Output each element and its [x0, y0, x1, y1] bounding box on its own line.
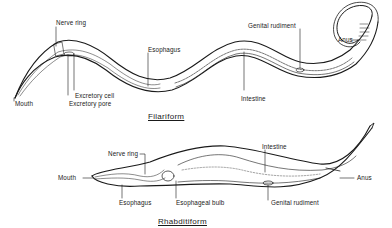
title-filariform: Filariform	[148, 113, 184, 121]
label-rhabditiform-esophagus: Esophagus	[119, 200, 151, 206]
title-rhabditiform: Rhabditiform	[158, 218, 207, 226]
label-filariform-intestine: Intestine	[241, 96, 266, 102]
label-filariform-nerve-ring: Nerve ring	[56, 20, 86, 26]
label-filariform-excretory-pore: Excretory pore	[69, 101, 111, 107]
label-rhabditiform-mouth: Mouth	[58, 175, 76, 181]
label-filariform-esophagus: Esophagus	[148, 47, 180, 53]
rhabditiform-larva-drawing	[83, 123, 374, 200]
label-rhabditiform-genital-rudiment: Genital rudiment	[271, 200, 319, 206]
diagram-canvas	[0, 0, 392, 228]
label-filariform-mouth: Mouth	[15, 101, 33, 107]
label-rhabditiform-nerve-ring: Nerve ring	[108, 151, 138, 157]
label-filariform-anus: Anus	[338, 37, 353, 43]
label-rhabditiform-intestine: Intestine	[262, 144, 287, 150]
label-filariform-excretory-cell: Excretory cell	[75, 93, 114, 99]
filariform-larva-drawing	[14, 2, 378, 101]
label-rhabditiform-anus: Anus	[357, 175, 372, 181]
label-filariform-genital-rudiment: Genital rudiment	[248, 23, 296, 29]
filariform-leader-lines	[14, 27, 358, 101]
label-rhabditiform-esophageal-bulb: Esophageal bulb	[176, 200, 224, 206]
